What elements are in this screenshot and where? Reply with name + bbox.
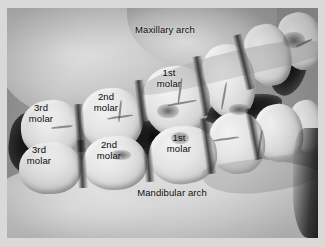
occlusal-stain bbox=[283, 32, 305, 48]
occlusal-stain bbox=[111, 150, 131, 160]
posterior-shadow-edge bbox=[293, 128, 318, 238]
mandibular-third-molar bbox=[18, 140, 83, 195]
anatomical-photograph bbox=[7, 8, 318, 238]
occlusal-stain bbox=[157, 104, 179, 118]
occlusal-stain bbox=[171, 132, 189, 144]
figure-root: Maxillary arch 1st molar 2nd molar 3rd m… bbox=[0, 0, 325, 247]
